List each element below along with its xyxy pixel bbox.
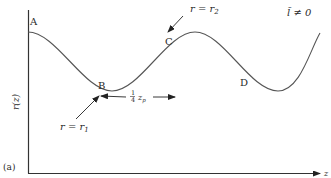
point-label-d: D [240,77,248,88]
orbit-radius-diagram: A B C D r = r2 r = r1 1 4 zp l̃ ≠ 0 r(z)… [0,0,331,178]
x-axis-label: z [323,169,329,178]
point-label-c: C [165,36,173,47]
point-label-b: B [98,80,105,91]
max-radius-label: r = r2 [190,3,219,16]
radius-curve [28,32,320,91]
quarter-fraction-den: 4 [131,96,135,104]
y-axis-label: r(z) [11,93,21,110]
condition-label: l̃ ≠ 0 [287,7,312,18]
point-label-a: A [29,16,38,27]
quarter-arrow-left [101,96,126,97]
panel-label: (a) [3,162,15,172]
quarter-period-var: zp [137,93,146,104]
max-radius-arrow [168,16,183,32]
min-radius-arrow [76,96,99,119]
min-radius-label: r = r1 [60,121,89,134]
